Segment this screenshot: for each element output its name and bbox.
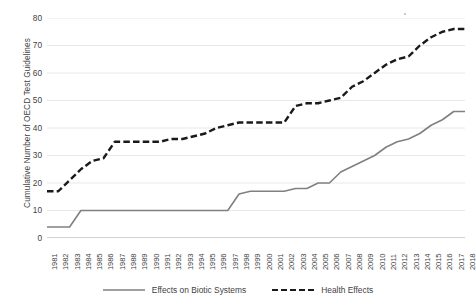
y-tick-label: 0 <box>20 234 42 242</box>
chart-figure: Cumulative Number of OECD Test Guideline… <box>0 0 476 303</box>
y-tick-label: 20 <box>20 179 42 187</box>
legend-swatch-solid <box>103 286 145 294</box>
x-tick-label: 1991 <box>163 254 172 271</box>
x-tick-label: 2004 <box>310 254 319 271</box>
chart-svg <box>47 18 465 238</box>
series-line-1 <box>47 29 465 191</box>
y-tick-label: 60 <box>20 69 42 77</box>
x-tick-label: 1983 <box>73 254 82 271</box>
x-tick-label: 1995 <box>208 254 217 271</box>
x-tick-label: 2009 <box>366 254 375 271</box>
x-axis-tick-labels: 1981198219831984198519861987198819891990… <box>47 240 465 274</box>
series-line-0 <box>47 112 465 228</box>
x-tick-label: 2005 <box>321 254 330 271</box>
x-tick-label: 1994 <box>197 254 206 271</box>
x-tick-label: 2018 <box>468 254 476 271</box>
x-tick-label: 2011 <box>389 254 398 270</box>
artifact-dot <box>404 13 406 15</box>
x-tick-label: 2003 <box>299 254 308 271</box>
gridlines <box>47 18 465 211</box>
x-tick-label: 1989 <box>140 254 149 271</box>
x-tick-label: 1996 <box>219 254 228 271</box>
legend-label-health: Health Effects <box>321 285 373 295</box>
y-tick-label: 10 <box>20 206 42 214</box>
x-tick-label: 2015 <box>434 254 443 271</box>
x-tick-label: 2006 <box>332 254 341 271</box>
x-tick-label: 1999 <box>253 254 262 271</box>
plot-area <box>47 18 465 238</box>
x-tick-label: 1988 <box>129 254 138 271</box>
x-tick-label: 1984 <box>84 254 93 271</box>
y-tick-label: 80 <box>20 14 42 22</box>
x-tick-label: 2008 <box>355 254 364 271</box>
x-tick-label: 2010 <box>378 254 387 271</box>
chart-legend: Effects on Biotic Systems Health Effects <box>0 280 476 300</box>
legend-item-health: Health Effects <box>272 285 373 295</box>
x-tick-label: 2017 <box>457 254 466 271</box>
x-tick-label: 1992 <box>174 254 183 271</box>
x-tick-label: 2013 <box>412 254 421 271</box>
x-tick-label: 2016 <box>445 254 454 271</box>
y-tick-label: 70 <box>20 41 42 49</box>
y-tick-label: 30 <box>20 151 42 159</box>
x-tick-label: 1986 <box>106 254 115 271</box>
x-tick-label: 1997 <box>231 254 240 271</box>
y-tick-label: 50 <box>20 96 42 104</box>
x-tick-label: 2001 <box>276 254 285 271</box>
x-tick-label: 1981 <box>50 254 59 271</box>
legend-item-biotic: Effects on Biotic Systems <box>103 285 246 295</box>
x-tick-label: 1982 <box>61 254 70 271</box>
x-tick-label: 1987 <box>118 254 127 271</box>
x-tick-label: 2012 <box>400 254 409 271</box>
y-tick-label: 40 <box>20 124 42 132</box>
x-tick-label: 2000 <box>265 254 274 271</box>
x-tick-label: 1990 <box>152 254 161 271</box>
x-tick-label: 1985 <box>95 254 104 271</box>
legend-label-biotic: Effects on Biotic Systems <box>152 285 246 295</box>
legend-swatch-dashed <box>272 286 314 294</box>
x-tick-label: 2007 <box>344 254 353 271</box>
x-tick-label: 1993 <box>186 254 195 271</box>
x-tick-label: 2002 <box>287 254 296 271</box>
x-tick-label: 2014 <box>423 254 432 271</box>
x-tick-label: 1998 <box>242 254 251 271</box>
